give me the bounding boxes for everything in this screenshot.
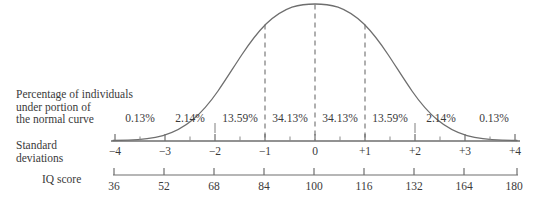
iq-tick-label: 116 [356, 180, 373, 192]
percentage-label: 34.13% [322, 112, 357, 124]
percentage-label: 0.13% [479, 112, 509, 124]
sd-tick-label: +3 [459, 145, 471, 157]
normal-curve-figure: Percentage of individuals under portion … [0, 0, 546, 202]
sd-tick-label: +4 [509, 145, 521, 157]
iq-tick-label: 164 [455, 180, 472, 192]
sd-tick-label: 0 [312, 145, 318, 157]
sd-tick-label: +2 [409, 145, 421, 157]
iq-tick-label: 84 [258, 180, 270, 192]
standard-deviations-caption: Standard deviations [16, 139, 96, 164]
sd-tick-label: −1 [259, 145, 271, 157]
sd-tick-label: −4 [109, 145, 121, 157]
sd-tick-label: −2 [209, 145, 221, 157]
percentage-label: 0.13% [125, 112, 155, 124]
percentage-label: 13.59% [222, 112, 257, 124]
sd-tick-label: −3 [159, 145, 171, 157]
iq-tick-label: 36 [108, 180, 120, 192]
percentage-label: 2.14% [175, 112, 205, 124]
iq-tick-label: 180 [505, 180, 522, 192]
iq-tick-label: 52 [158, 180, 170, 192]
iq-tick-label: 100 [305, 180, 322, 192]
iq-tick-label: 132 [405, 180, 422, 192]
iq-tick-label: 68 [208, 180, 220, 192]
iq-score-caption: IQ score [42, 173, 112, 186]
percentage-label: 34.13% [272, 112, 307, 124]
percentage-label: 13.59% [372, 112, 407, 124]
percentage-caption: Percentage of individuals under portion … [16, 88, 134, 126]
iq-score-ticks [114, 168, 517, 175]
standard-deviations-major-ticks [115, 134, 515, 141]
sd-tick-label: +1 [359, 145, 371, 157]
percentage-label: 2.14% [426, 112, 456, 124]
